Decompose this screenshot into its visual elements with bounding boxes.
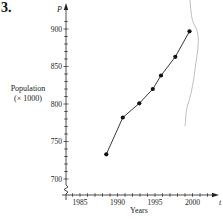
population-line-chart: Pt 7007508008509001985199019952000	[0, 0, 223, 220]
data-point-marker	[137, 101, 141, 105]
x-tick-label: 1985	[73, 198, 88, 207]
data-point-marker	[187, 29, 191, 33]
scan-artifact-line	[185, 0, 198, 126]
x-tick-label: 2000	[185, 198, 200, 207]
y-axis-arrow-icon	[64, 3, 68, 10]
series-line	[106, 31, 189, 154]
data-point-marker	[104, 152, 108, 156]
data-point-marker	[151, 87, 155, 91]
axis-break-icon	[64, 185, 68, 200]
x-tick-label: 1995	[148, 198, 163, 207]
x-axis-symbol: t	[219, 198, 222, 207]
data-point-marker	[159, 73, 163, 77]
y-tick-label: 900	[51, 25, 63, 34]
data-point-marker	[121, 115, 125, 119]
y-tick-label: 750	[51, 137, 63, 146]
y-tick-label: 800	[51, 100, 63, 109]
data-point-marker	[173, 55, 177, 59]
y-tick-label: 700	[51, 175, 63, 184]
x-axis-arrow-icon	[212, 193, 219, 197]
x-tick-label: 1990	[110, 198, 125, 207]
y-axis-symbol: P	[56, 5, 62, 14]
data-series	[104, 29, 191, 156]
scan-artifact-curve	[185, 0, 198, 126]
tick-marks	[64, 22, 208, 197]
y-tick-label: 850	[51, 62, 63, 71]
